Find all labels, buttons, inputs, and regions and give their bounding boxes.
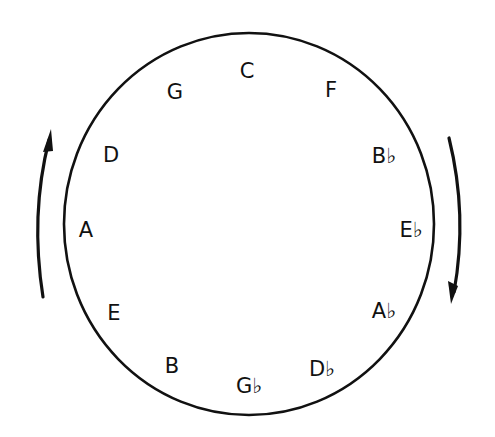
note-label: B♭ (372, 144, 396, 168)
note-label: A (79, 218, 94, 242)
note-label: B (165, 354, 179, 378)
note-label: G♭ (236, 374, 262, 398)
note-label: G (167, 80, 183, 104)
note-label: F (325, 78, 337, 102)
circle-of-fifths-diagram: CFB♭E♭A♭D♭G♭BEADG (0, 0, 495, 437)
note-label: A♭ (372, 299, 396, 323)
note-label: D♭ (309, 357, 335, 381)
clockwise-arrow-icon (448, 138, 460, 304)
note-label: C (240, 59, 255, 83)
note-label: E♭ (399, 218, 422, 242)
counterclockwise-arrow-icon (38, 129, 53, 297)
note-label: D (103, 143, 119, 167)
circle-outline (64, 33, 434, 415)
note-labels: CFB♭E♭A♭D♭G♭BEADG (79, 59, 423, 398)
note-label: E (107, 301, 120, 325)
